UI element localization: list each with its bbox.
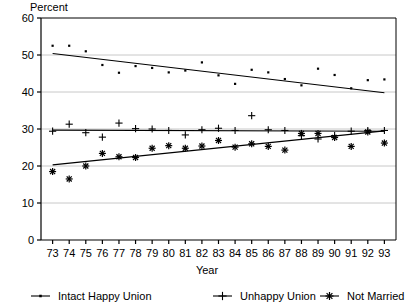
data-point-91-25.3 (348, 143, 355, 150)
data-point-74-52.5 (68, 45, 70, 47)
y-tick-label-50: 50 (22, 49, 34, 61)
data-point-78-47 (134, 65, 136, 67)
y-tick-label-20: 20 (22, 160, 34, 172)
x-tick-label-93: 93 (378, 247, 390, 259)
x-tick-label-78: 78 (129, 247, 141, 259)
legend-marker-dot-icon (39, 295, 42, 298)
x-tick-label-74: 74 (63, 247, 75, 259)
data-point-85-46 (251, 69, 253, 71)
data-point-73-52.5 (52, 45, 54, 47)
x-tick-label-79: 79 (146, 247, 158, 259)
x-tick-label-90: 90 (328, 247, 340, 259)
data-point-92-29.2 (364, 128, 371, 135)
x-tick-label-85: 85 (246, 247, 258, 259)
data-point-81-45.8 (184, 69, 186, 71)
x-tick-label-84: 84 (229, 247, 241, 259)
y-tick-label-40: 40 (22, 86, 34, 98)
percent-by-year-scatter-chart: 0102030405060 73747576777879808182838485… (0, 0, 415, 305)
data-point-81-24.8 (182, 145, 189, 152)
data-point-76-47.3 (101, 64, 103, 66)
data-point-77-22.5 (115, 153, 122, 160)
x-tick-label-92: 92 (362, 247, 374, 259)
data-point-75-20 (82, 163, 89, 170)
legend-label: Unhappy Union (240, 290, 316, 302)
x-tick-label-73: 73 (46, 247, 58, 259)
x-tick-label-82: 82 (196, 247, 208, 259)
data-point-93-43.4 (383, 78, 385, 80)
data-point-89-46.3 (317, 68, 319, 70)
data-point-78-22.3 (132, 154, 139, 161)
x-tick-label-75: 75 (80, 247, 92, 259)
x-tick-label-77: 77 (113, 247, 125, 259)
data-point-85-26 (248, 140, 255, 147)
x-axis-ticks (53, 240, 385, 244)
data-point-88-41.8 (300, 84, 302, 86)
x-tick-label-88: 88 (295, 247, 307, 259)
x-tick-label-89: 89 (312, 247, 324, 259)
data-point-80-45.3 (168, 71, 170, 73)
x-tick-label-81: 81 (179, 247, 191, 259)
data-point-93-26.2 (381, 140, 388, 147)
data-point-86-25.3 (265, 143, 272, 150)
legend-label: Intact Happy Union (58, 290, 152, 302)
data-point-76-23.4 (99, 150, 106, 157)
data-point-79-46.5 (151, 67, 153, 69)
data-point-87-43.5 (284, 78, 286, 80)
y-tick-label-30: 30 (22, 123, 34, 135)
data-point-73-18.5 (49, 168, 56, 175)
data-point-84-25.1 (232, 144, 239, 151)
x-tick-label-91: 91 (345, 247, 357, 259)
data-point-74-16.5 (66, 175, 73, 182)
data-point-83-44.5 (217, 74, 219, 76)
data-point-91-41 (350, 87, 352, 89)
y-tick-label-10: 10 (22, 197, 34, 209)
data-point-92-43.2 (367, 79, 369, 81)
data-point-90-27.7 (331, 134, 338, 141)
x-axis-label: Year (196, 264, 219, 276)
y-axis-label: Percent (30, 1, 68, 13)
x-tick-label-83: 83 (212, 247, 224, 259)
data-point-77-45.2 (118, 72, 120, 74)
data-point-82-48 (201, 61, 203, 63)
x-tick-label-80: 80 (163, 247, 175, 259)
data-point-90-44.6 (334, 74, 336, 76)
data-point-79-24.8 (149, 145, 156, 152)
x-tick-label-86: 86 (262, 247, 274, 259)
legend-label: Not Married (347, 290, 404, 302)
legend-marker-asterisk-icon (325, 292, 333, 300)
data-point-88-28.8 (298, 130, 305, 137)
data-point-82-25.4 (198, 143, 205, 150)
data-point-84-42.2 (234, 83, 236, 85)
y-tick-label-60: 60 (22, 12, 34, 24)
data-point-83-26.9 (215, 137, 222, 144)
x-tick-label-87: 87 (279, 247, 291, 259)
x-tick-label-76: 76 (96, 247, 108, 259)
data-point-87-24.3 (281, 147, 288, 154)
data-point-86-45.3 (267, 71, 269, 73)
chart-figure: 0102030405060 73747576777879808182838485… (0, 0, 415, 305)
data-point-75-51 (85, 50, 87, 52)
data-point-89-28.8 (315, 130, 322, 137)
chart-background (0, 0, 415, 305)
x-axis-tick-labels: 7374757677787980818283848586878889909192… (46, 247, 390, 259)
y-tick-label-0: 0 (28, 234, 34, 246)
data-point-80-25.5 (165, 142, 172, 149)
